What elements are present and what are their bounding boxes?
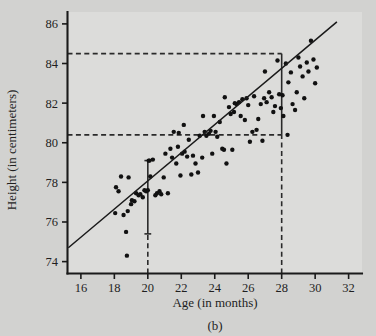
data-point [290, 102, 294, 106]
data-point [298, 64, 302, 68]
data-point [174, 161, 178, 165]
data-point [129, 202, 133, 206]
x-tick-label: 26 [242, 281, 255, 295]
data-point [246, 103, 250, 107]
data-point [248, 140, 252, 144]
y-tick-label: 86 [46, 17, 59, 31]
data-point [223, 95, 227, 99]
data-point [163, 151, 167, 155]
data-point [230, 147, 234, 151]
data-point [201, 114, 205, 118]
data-point [306, 69, 310, 73]
data-point [213, 130, 217, 134]
x-axis-title: Age (in months) [172, 295, 257, 310]
data-point [311, 57, 315, 61]
y-tick-label: 84 [46, 57, 59, 71]
x-tick-label: 16 [75, 281, 88, 295]
x-tick-label: 30 [309, 281, 322, 295]
y-tick-label: 74 [46, 255, 59, 269]
y-tick-label: 76 [46, 215, 59, 229]
data-point [187, 138, 191, 142]
data-point [285, 133, 289, 137]
data-point [269, 95, 273, 99]
data-point [250, 130, 254, 134]
x-tick-label: 18 [108, 281, 121, 295]
plot-area-background [68, 12, 363, 274]
data-point [275, 58, 279, 62]
data-point [256, 117, 260, 121]
data-point [172, 130, 176, 134]
data-point [252, 94, 256, 98]
data-point [210, 151, 214, 155]
data-point [125, 253, 129, 257]
data-point [227, 105, 231, 109]
data-point [200, 155, 204, 159]
data-point [166, 191, 170, 195]
data-point [182, 123, 186, 127]
data-point [238, 114, 242, 118]
data-point [191, 153, 195, 157]
data-point [162, 175, 166, 179]
x-tick-label: 20 [142, 281, 155, 295]
x-tick-label: 22 [175, 281, 188, 295]
data-point [196, 170, 200, 174]
chart-canvas: 16182022242628303274767880828486 Age (in… [0, 0, 376, 336]
data-point [124, 230, 128, 234]
scatter-plot-figure: 16182022242628303274767880828486 Age (in… [0, 0, 376, 336]
data-point [176, 145, 180, 149]
data-point [168, 146, 172, 150]
data-point [302, 96, 306, 100]
y-tick-label: 78 [46, 176, 59, 190]
data-point [313, 81, 317, 85]
data-point [119, 174, 123, 178]
data-point [280, 93, 284, 97]
data-point [286, 80, 290, 84]
data-point [189, 172, 193, 176]
data-point [116, 189, 120, 193]
data-point [305, 60, 309, 64]
data-point [114, 185, 118, 189]
y-tick-label: 82 [46, 97, 59, 111]
data-point [222, 147, 226, 151]
x-tick-label: 24 [209, 281, 222, 295]
data-point [259, 102, 263, 106]
x-tick-label: 32 [342, 281, 355, 295]
data-point [289, 70, 293, 74]
data-point [295, 90, 299, 94]
data-point [233, 101, 237, 105]
data-point [300, 74, 304, 78]
data-point [178, 173, 182, 177]
x-tick-label: 28 [275, 281, 288, 295]
data-point [264, 100, 268, 104]
data-point [193, 161, 197, 165]
data-point [146, 188, 150, 192]
data-point [315, 65, 319, 69]
data-point [126, 175, 130, 179]
y-axis-title: Height (in centimeters) [4, 90, 19, 211]
data-point [132, 199, 136, 203]
data-point [185, 154, 189, 158]
data-point [254, 128, 258, 132]
data-point [147, 158, 151, 162]
data-point [293, 108, 297, 112]
data-point [271, 110, 275, 114]
data-point [159, 192, 163, 196]
data-point [243, 118, 247, 122]
data-point [260, 139, 264, 143]
data-point [273, 104, 277, 108]
figure-caption: (b) [207, 318, 222, 333]
data-point [215, 135, 219, 139]
data-point [113, 211, 117, 215]
data-point [263, 69, 267, 73]
data-point [224, 161, 228, 165]
data-point [262, 96, 266, 100]
data-point [141, 195, 145, 199]
data-point [281, 114, 285, 118]
data-point [212, 114, 216, 118]
data-point [177, 131, 181, 135]
data-point [126, 209, 130, 213]
data-point [267, 90, 271, 94]
data-point [121, 213, 125, 217]
y-tick-label: 80 [46, 136, 59, 150]
data-point [279, 106, 283, 110]
